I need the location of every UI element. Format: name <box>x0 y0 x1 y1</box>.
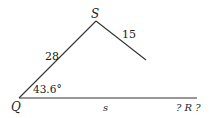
angle-q-label: 43.6° <box>33 83 62 95</box>
vertex-s-label: S <box>91 7 99 21</box>
side-qs-length: 28 <box>45 50 59 63</box>
side-sr-length: 15 <box>122 28 136 41</box>
triangle-diagram: S 15 28 43.6° Q s ? R ? <box>0 0 220 118</box>
vertex-q-label: Q <box>11 100 21 114</box>
side-qr-label: s <box>103 102 108 113</box>
side-sr <box>96 21 146 60</box>
vertex-r-label: ? R ? <box>176 102 201 113</box>
